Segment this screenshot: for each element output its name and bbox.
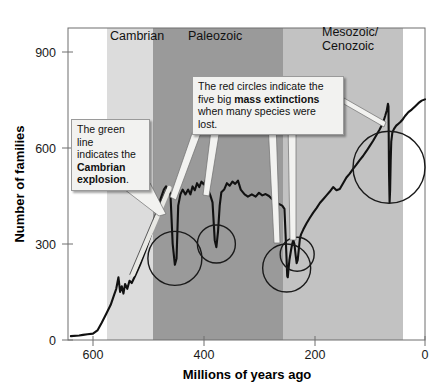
extinction-chart-figure: Cambrian Paleozoic Mesozoic/ Cenozoic 90… <box>0 0 446 385</box>
x-tick-label-200: 200 <box>305 348 326 362</box>
band-label-mesozoic-line2: Cenozoic <box>322 39 374 53</box>
era-bands <box>107 28 403 340</box>
x-tick-label-0: 0 <box>422 348 429 362</box>
callout-mass-extinctions: The red circles indicate the five big ma… <box>192 76 344 135</box>
x-tick-label-600: 600 <box>83 348 104 362</box>
y-tick-label-900: 900 <box>35 46 56 60</box>
band-label-cambrian: Cambrian <box>110 29 164 43</box>
callout-red-line1: The red circles indicate the <box>198 80 323 92</box>
callout-red-line3: when many species were lost. <box>198 105 316 130</box>
callout-green-line2: indicates the <box>77 148 136 160</box>
callout-green-bold1: Cambrian <box>77 161 125 173</box>
x-axis-title: Millions of years ago <box>183 367 312 382</box>
y-tick-label-0: 0 <box>49 334 56 348</box>
y-tick-label-600: 600 <box>35 142 56 156</box>
chart-canvas: Cambrian Paleozoic Mesozoic/ Cenozoic 90… <box>0 0 446 385</box>
band-label-paleozoic: Paleozoic <box>188 29 242 43</box>
callout-green-period: . <box>126 173 129 185</box>
x-tick-label-400: 400 <box>194 348 215 362</box>
y-axis: 900 600 300 0 <box>35 46 73 348</box>
band-paleozoic <box>153 28 283 340</box>
y-tick-label-300: 300 <box>35 238 56 252</box>
callout-green-bold2: explosion <box>77 173 126 185</box>
callout-red-line2a: five big <box>198 93 234 105</box>
callout-red-bold: mass extinctions <box>234 93 319 105</box>
callout-cambrian-explosion: The green line indicates the Cambrian ex… <box>71 119 150 191</box>
y-axis-title: Number of families <box>12 125 27 242</box>
callout-green-line1: The green line <box>77 123 125 148</box>
band-label-mesozoic-line1: Mesozoic/ <box>322 25 379 39</box>
